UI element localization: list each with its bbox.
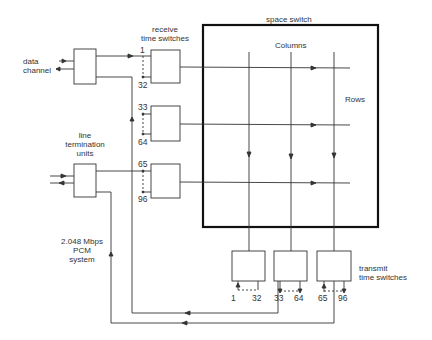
data-channel-label: data channel [23, 57, 51, 75]
receive-channel-start-1: 1 [140, 46, 145, 55]
transmit-switch-box-3 [317, 251, 351, 281]
transmit-channel-end-2: 64 [294, 294, 303, 303]
rows-label: Rows [345, 95, 365, 104]
space-switch-label: space switch [266, 15, 312, 24]
pcm-system-label: 2.048 Mbps PCM system [55, 237, 109, 264]
transmit-switch-box-2 [274, 251, 307, 281]
receive-switch-box-2 [151, 106, 180, 141]
columns-label: Columns [275, 41, 307, 50]
row-arrow-2 [311, 123, 316, 127]
receive-channel-end-3: 96 [138, 195, 147, 204]
receive-switch-box-3 [151, 164, 180, 198]
transmit-channel-start-2: 33 [274, 294, 283, 303]
row-line-3 [180, 182, 350, 183]
column-arrow-1 [247, 152, 251, 157]
space-switch-frame [203, 25, 378, 227]
transmit-channel-start-1: 1 [231, 294, 236, 303]
line-termination-unit [74, 164, 96, 197]
transmit-time-switches-label: transmit time switches [359, 264, 407, 282]
receive-channel-start-3: 65 [138, 160, 147, 169]
row-arrow-1 [311, 66, 316, 70]
diagram-canvas [0, 0, 432, 340]
row-line-2 [180, 124, 350, 125]
transmit-channel-end-3: 96 [338, 294, 347, 303]
row-line-1 [180, 67, 350, 68]
column-arrow-3 [332, 153, 336, 158]
receive-channel-end-1: 32 [138, 81, 147, 90]
data-channel-unit [74, 49, 96, 84]
receive-channel-end-2: 64 [138, 138, 147, 147]
transmit-switch-box-1 [232, 251, 265, 281]
receive-channel-start-2: 33 [138, 103, 147, 112]
transmit-channel-end-1: 32 [252, 294, 261, 303]
column-arrow-2 [289, 154, 293, 159]
line-termination-units-label: line termination units [60, 131, 110, 158]
transmit-channel-start-3: 65 [318, 294, 327, 303]
row-arrow-3 [311, 181, 316, 185]
receive-switch-box-1 [151, 50, 180, 83]
receive-time-switches-label: receive time switches [137, 25, 193, 43]
